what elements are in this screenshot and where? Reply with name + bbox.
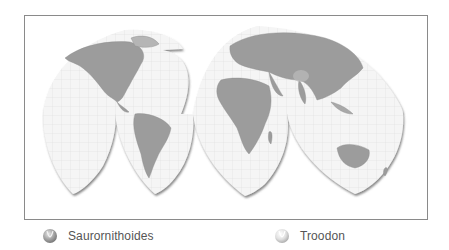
map-frame: [24, 15, 428, 220]
light-sphere-marker-icon: [274, 228, 290, 244]
world-map: [25, 16, 429, 221]
legend-item-troodon: Troodon: [274, 226, 345, 246]
legend-label: Troodon: [300, 229, 345, 243]
legend-label: Saurornithoides: [68, 229, 154, 243]
legend-item-saurornithoides: Saurornithoides: [42, 226, 154, 246]
legend: Saurornithoides Troodon: [0, 226, 449, 246]
dark-sphere-marker-icon: [42, 228, 58, 244]
